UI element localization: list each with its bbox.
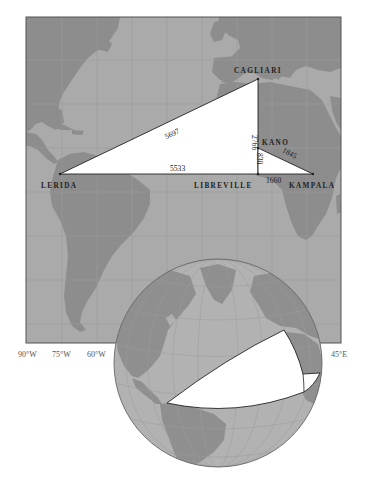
- point-cagliari: [257, 78, 259, 80]
- distance-libreville-kampala: 1660: [266, 176, 281, 185]
- longitude-label-60w: 60°W: [87, 350, 106, 359]
- globe: [114, 259, 324, 470]
- point-libreville: [257, 173, 259, 175]
- longitude-label-75w: 75°W: [52, 350, 71, 359]
- label-lerida: LERIDA: [41, 182, 77, 190]
- longitude-label-90w: 90°W: [18, 350, 37, 359]
- distance-cagliari-kano: 2766: [250, 135, 259, 150]
- label-kampala: KAMPALA: [289, 182, 335, 190]
- label-cagliari: CAGLIARI: [234, 67, 282, 75]
- longitude-label-45e: 45°E: [331, 350, 347, 359]
- distance-kano-libreville: 830: [255, 153, 264, 165]
- point-lerida: [59, 173, 61, 175]
- distance-lerida-libreville: 5533: [170, 164, 185, 173]
- point-kampala: [312, 173, 314, 175]
- label-libreville: LIBREVILLE: [194, 182, 253, 190]
- map-figure: CAGLIARI KANO LERIDA LIBREVILLE KAMPALA …: [0, 0, 367, 478]
